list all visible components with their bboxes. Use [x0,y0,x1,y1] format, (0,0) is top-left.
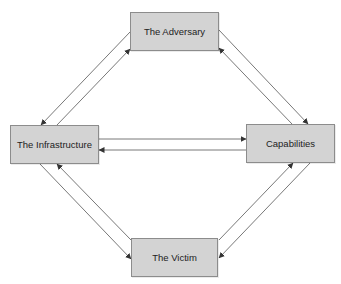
edge-adversary-to-infrastructure [41,32,130,125]
edge-infrastructure-to-victim [40,164,131,259]
node-victim-label: The Victim [152,252,197,263]
edge-infrastructure-to-adversary [57,49,130,125]
node-victim: The Victim [131,238,218,277]
edge-victim-to-capabilities [219,163,293,240]
diamond-model-diagram: The Adversary The Infrastructure Capabil… [0,0,341,284]
node-infrastructure: The Infrastructure [10,125,99,164]
edge-capabilities-to-adversary [219,48,292,124]
node-adversary-label: The Adversary [144,26,205,37]
node-capabilities-label: Capabilities [266,138,315,149]
edge-capabilities-to-victim [219,163,310,258]
node-adversary: The Adversary [130,12,219,51]
node-capabilities: Capabilities [246,124,335,163]
node-infrastructure-label: The Infrastructure [17,139,92,150]
edge-adversary-to-capabilities [219,30,308,124]
edge-victim-to-infrastructure [57,164,131,240]
